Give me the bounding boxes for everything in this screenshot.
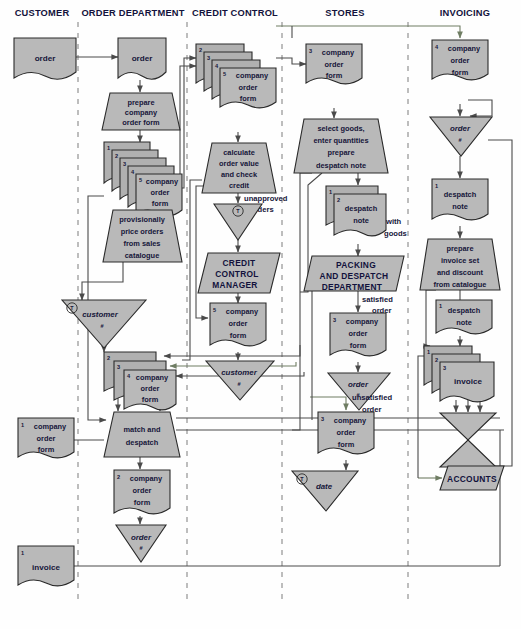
date-file-label: date [316, 482, 333, 491]
customer-invoice-num: 1 [21, 550, 24, 556]
node-prepare-invoice-set[interactable]: prepare invoice set and discount from ca… [420, 239, 500, 290]
node-customer-invoice[interactable]: 1 invoice [18, 546, 74, 586]
invoicing-despatch-line-1: despatch [444, 190, 477, 199]
stores-cof3c-line-2: order [337, 428, 356, 437]
node-match-and-despatch[interactable]: match and despatch [104, 412, 180, 457]
cof-stack-line-1: company [146, 177, 179, 186]
node-calculate-order-value[interactable]: calculate order value and check credit [202, 143, 276, 193]
node-cc-cof5[interactable]: 5 company order form [210, 303, 266, 346]
node-od-cof-stack-2[interactable]: 2 3 4 company order form [104, 352, 176, 410]
node-od-cof-out[interactable]: 2 company order form [114, 470, 170, 514]
invoice-copy-3: 3 [443, 365, 446, 371]
cof-copy-2: 2 [115, 153, 118, 159]
node-invoicing-order-file[interactable]: order # [430, 117, 492, 156]
node-credit-control-manager[interactable]: CREDIT CONTROL MANAGER [198, 253, 280, 293]
node-od-order[interactable]: order [118, 38, 166, 79]
node-customer-order[interactable]: order [14, 38, 76, 79]
cof2-copy-2: 2 [107, 355, 110, 361]
stores-cof3b-line-3: form [350, 341, 367, 350]
connector-cc-to-stores-cof3 [276, 58, 306, 64]
cof-copy-5: 5 [139, 177, 142, 183]
prepare-invoice-line-3: and discount [437, 268, 484, 277]
unapproved-line-1: unapproved [244, 194, 288, 203]
satisfied-line-1: satisfied [362, 295, 393, 304]
node-stores-cof3c[interactable]: 3 company order form [318, 412, 374, 454]
node-collate-double-triangle[interactable] [440, 413, 496, 467]
node-despatch-note-stack[interactable]: 1 2 despatch note [326, 186, 386, 236]
stores-cof3c-line-1: company [334, 416, 367, 425]
node-accounts[interactable]: ACCOUNTS [440, 466, 504, 490]
stores-cof3b-line-1: company [346, 317, 379, 326]
connector-top-bar-to-invoicing [276, 26, 460, 38]
node-customer-file[interactable]: T customer # [62, 300, 146, 348]
node-date-file[interactable]: T date [292, 471, 358, 511]
invoicing-despatch-b-num: 1 [439, 303, 442, 309]
cof-out-num: 2 [117, 474, 120, 480]
stores-order-file-label: order [348, 380, 369, 389]
select-line-4: despatch note [316, 161, 366, 170]
node-select-goods[interactable]: select goods, enter quantities prepare d… [294, 119, 388, 173]
invoice-copy-1: 1 [427, 349, 430, 355]
cof-out-line-2: order [133, 486, 152, 495]
packing-line-1: PACKING [336, 260, 376, 270]
prepare-line-3: order form [122, 118, 160, 127]
column-header-stores: STORES [325, 8, 364, 18]
invoicing-despatch-num: 1 [435, 183, 438, 189]
prepare-invoice-line-2: invoice set [441, 256, 480, 265]
cc-stack-line-1: company [236, 71, 269, 80]
node-unapproved-orders-file[interactable]: T [214, 204, 262, 240]
node-invoicing-despatch-note[interactable]: 1 despatch note [432, 179, 488, 220]
customer-file-label: customer [82, 310, 118, 319]
calculate-line-4: credit [229, 181, 250, 190]
connector-prepare-left-to-invoice [426, 290, 436, 346]
despatch-line-2: note [353, 216, 369, 225]
invoicing-despatch-b-line-1: despatch [448, 306, 481, 315]
customer-cof-num: 1 [21, 422, 24, 428]
invoicing-order-file-label: order [450, 124, 471, 133]
cof-copy-3: 3 [123, 161, 126, 167]
customer-cof-line-1: company [34, 422, 67, 431]
node-invoicing-despatch-note-b[interactable]: 1 despatch note [436, 300, 492, 334]
connector-calculate-left-to-cof5 [196, 186, 208, 318]
connector-unsatisfied-to-cof3c [310, 397, 346, 410]
node-stores-cof3b[interactable]: 3 company order form [330, 313, 386, 356]
node-customer-cof[interactable]: 1 company order form [18, 418, 74, 458]
invoice-stack-label: invoice [454, 377, 482, 386]
cc-cof5-line-2: order [229, 319, 248, 328]
node-od-cof-stack[interactable]: 1 2 3 4 5 company order form [104, 142, 182, 216]
node-cc-customer-file[interactable]: customer # [206, 361, 274, 400]
node-invoicing-cof4[interactable]: 4 company order form [432, 40, 488, 80]
packing-line-3: DEPARTMENT [322, 282, 383, 292]
column-headers: CUSTOMER ORDER DEPARTMENT CREDIT CONTROL… [15, 8, 491, 18]
customer-cof-line-3: form [38, 445, 55, 454]
prepare-invoice-line-1: prepare [446, 244, 473, 253]
stores-cof3c-num: 3 [321, 416, 324, 422]
node-od-order-label: order [132, 54, 154, 63]
prepare-line-1: prepare [127, 98, 154, 107]
node-invoice-stack[interactable]: 1 2 3 invoice [424, 346, 494, 402]
calculate-line-2: order value [219, 159, 259, 168]
stores-cof3b-num: 3 [333, 317, 336, 323]
node-packing-and-despatch[interactable]: PACKING AND DESPATCH DEPARTMENT [304, 256, 404, 292]
price-line-3: from sales [124, 239, 161, 248]
cof-out-line-3: form [134, 498, 151, 507]
node-prepare-company-order-form[interactable]: prepare company order form [102, 93, 180, 130]
node-provisionally-price-orders[interactable]: provisionally price orders from sales ca… [103, 210, 182, 262]
customer-cof-line-2: order [37, 434, 56, 443]
node-stores-cof3[interactable]: 3 company order form [306, 44, 362, 84]
invoicing-cof4-line-1: company [448, 44, 481, 53]
cc-customer-file-label: customer [221, 368, 257, 377]
connector-stores-to-od-stack-1 [164, 345, 300, 356]
node-od-order-file[interactable]: order # [116, 525, 166, 562]
select-line-3: prepare [327, 148, 354, 157]
node-cc-cof-stack[interactable]: 2 3 4 5 company order form [196, 44, 276, 108]
manager-line-1: CREDIT [223, 258, 257, 268]
packing-line-2: AND DESPATCH [320, 271, 389, 281]
cof2-line-3: form [142, 395, 159, 404]
cc-stack-line-3: form [240, 94, 257, 103]
invoicing-despatch-b-line-2: note [456, 318, 472, 327]
invoicing-despatch-line-2: note [452, 202, 468, 211]
cc-cof5-line-3: form [230, 331, 247, 340]
prepare-invoice-line-4: from catalogue [434, 280, 487, 289]
invoicing-cof4-line-3: form [452, 68, 469, 77]
